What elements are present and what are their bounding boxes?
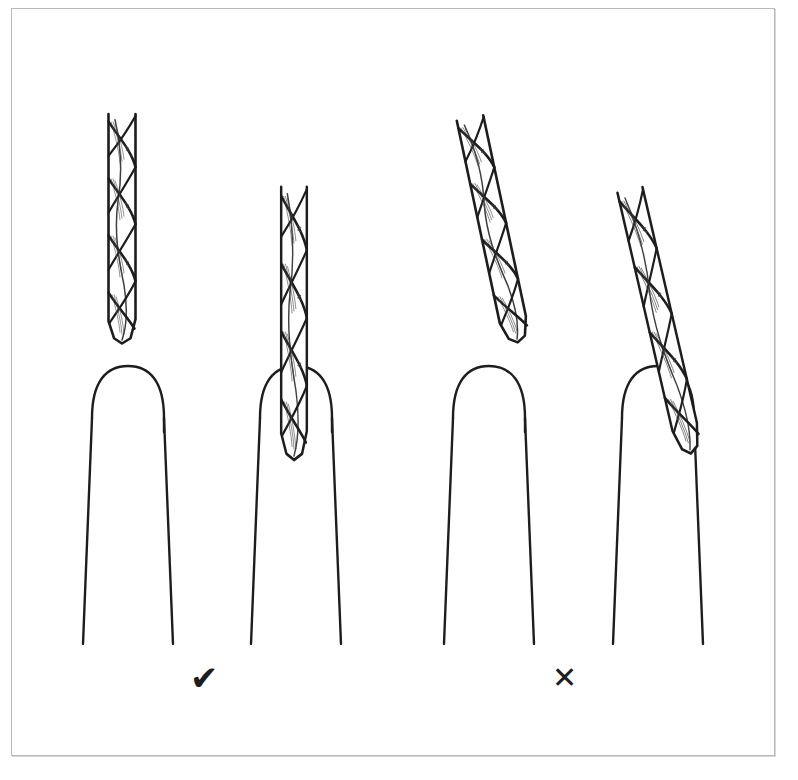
- hand-drawn-illustration: [0, 0, 798, 780]
- finger-empty-left: [83, 366, 173, 644]
- drill-bit-upright-inserted: [281, 187, 307, 460]
- finger-empty-right: [444, 366, 534, 644]
- drill-bit-upright-detached: [109, 114, 136, 343]
- drill-bit-tilted-detached: [457, 115, 531, 345]
- correct-check-icon: ✔: [190, 661, 219, 695]
- incorrect-cross-icon: ✕: [552, 663, 577, 693]
- figure-canvas: ✔ ✕: [0, 0, 798, 780]
